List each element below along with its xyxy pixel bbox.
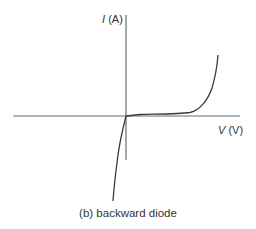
x-axis-symbol: V: [218, 124, 225, 136]
reverse-curve: [113, 116, 126, 201]
iv-characteristic-diagram: [0, 0, 256, 229]
y-axis-unit: (A): [108, 13, 123, 25]
x-axis-unit: (V): [228, 124, 243, 136]
figure-caption: (b) backward diode: [0, 207, 256, 219]
y-axis-label: I (A): [102, 13, 123, 25]
forward-curve: [126, 55, 218, 116]
x-axis-label: V (V): [218, 124, 243, 136]
y-axis-symbol: I: [102, 13, 105, 25]
